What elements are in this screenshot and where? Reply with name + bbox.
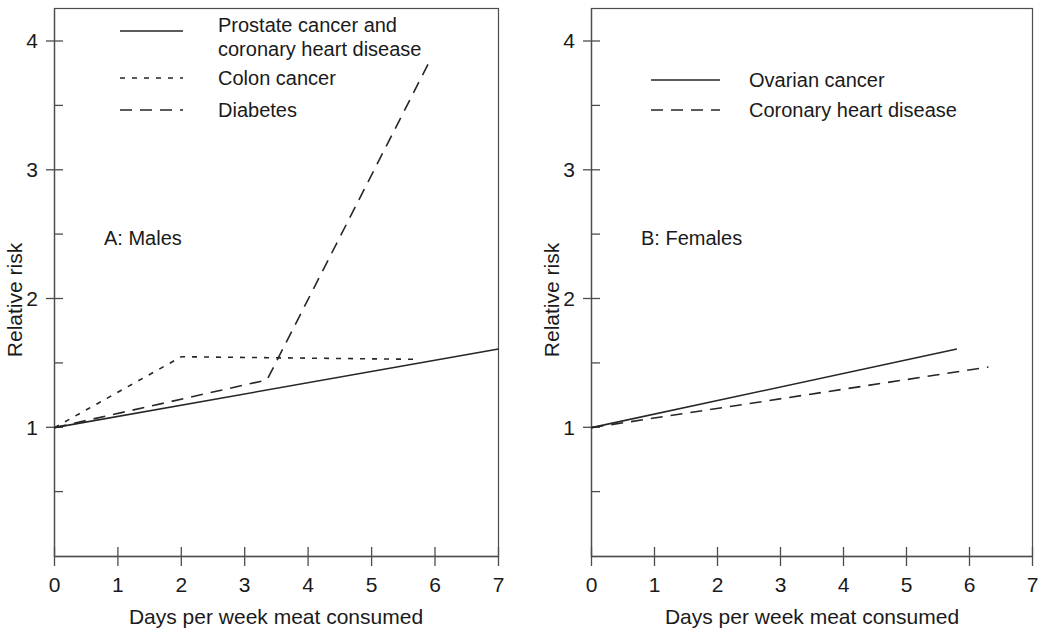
series-line-ovarian-cancer [592, 349, 957, 428]
y-axis-title-b: Relative risk [540, 242, 563, 357]
panel-label-b: B: Females [641, 227, 742, 249]
y-tick-label-2-a: 2 [26, 287, 38, 310]
legend-label-ovarian-cancer: Ovarian cancer [749, 69, 885, 91]
legend-b: Ovarian cancer Coronary heart disease [651, 69, 957, 121]
x-axis-title-a: Days per week meat consumed [129, 605, 423, 628]
x-tick-label-4-a: 4 [302, 573, 314, 596]
y-tick-label-3-a: 3 [26, 158, 38, 181]
plot-frame-a [55, 9, 499, 557]
x-tick-label-6-a: 6 [429, 573, 441, 596]
y-tick-label-3-b: 3 [563, 158, 575, 181]
x-tick-label-0-a: 0 [49, 573, 61, 596]
x-tick-label-3-b: 3 [775, 573, 787, 596]
x-tick-label-7-b: 7 [1027, 573, 1039, 596]
chart-panel-a: 4 3 2 1 0 1 2 [0, 0, 523, 633]
y-axis-title-a: Relative risk [3, 242, 26, 357]
series-b [592, 349, 989, 428]
legend-label-colon-cancer: Colon cancer [218, 67, 336, 89]
y-tick-label-1-a: 1 [26, 416, 38, 439]
x-axis-a: 0 1 2 3 4 5 6 7 [49, 547, 505, 596]
x-tick-label-6-b: 6 [964, 573, 976, 596]
x-tick-label-0-b: 0 [586, 573, 598, 596]
series-line-prostate-chd [55, 349, 499, 428]
chart-b-canvas: 4 3 2 1 0 1 2 [523, 0, 1046, 633]
y-tick-label-4-b: 4 [563, 29, 575, 52]
chart-a-canvas: 4 3 2 1 0 1 2 [0, 0, 523, 633]
x-tick-label-1-b: 1 [649, 573, 661, 596]
legend-label-prostate-chd-line2: coronary heart disease [218, 38, 421, 60]
series-line-coronary-heart-disease [592, 367, 989, 428]
legend-label-coronary-heart-disease: Coronary heart disease [749, 99, 957, 121]
x-tick-label-5-b: 5 [901, 573, 913, 596]
y-tick-label-4-a: 4 [26, 29, 38, 52]
x-tick-label-4-b: 4 [838, 573, 850, 596]
y-axis-b: 4 3 2 1 [563, 9, 600, 557]
chart-panel-b: 4 3 2 1 0 1 2 [523, 0, 1046, 633]
x-tick-label-2-b: 2 [712, 573, 724, 596]
x-tick-label-1-a: 1 [112, 573, 124, 596]
y-tick-label-2-b: 2 [563, 287, 575, 310]
series-line-colon-cancer [55, 357, 417, 428]
x-tick-label-5-a: 5 [366, 573, 378, 596]
legend-a: Prostate cancer and coronary heart disea… [120, 14, 421, 121]
figure-root: 4 3 2 1 0 1 2 [0, 0, 1046, 633]
panel-label-a: A: Males [104, 227, 182, 249]
legend-label-prostate-chd-line1: Prostate cancer and [218, 14, 397, 36]
x-tick-label-2-a: 2 [175, 573, 187, 596]
x-tick-label-7-a: 7 [493, 573, 505, 596]
legend-label-diabetes: Diabetes [218, 99, 297, 121]
x-axis-b: 0 1 2 3 4 5 6 7 [586, 547, 1039, 596]
y-tick-label-1-b: 1 [563, 416, 575, 439]
y-axis-a: 4 3 2 1 [26, 9, 63, 557]
x-tick-label-3-a: 3 [239, 573, 251, 596]
x-axis-title-b: Days per week meat consumed [665, 605, 959, 628]
